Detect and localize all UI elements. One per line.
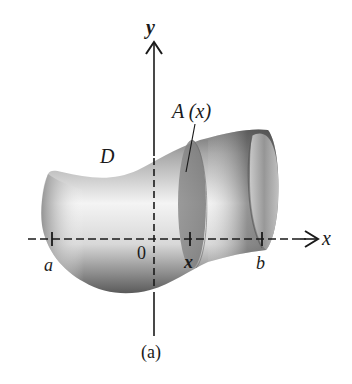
figure-caption: (a) <box>141 343 161 361</box>
x-axis-label: x <box>322 228 331 248</box>
tick-label-x: x <box>184 253 193 271</box>
region-label-d: D <box>100 146 114 166</box>
solid-body <box>41 129 278 293</box>
cross-section-label: A (x) <box>172 101 211 121</box>
tick-label-a: a <box>44 256 53 274</box>
solid-diagram <box>0 0 352 384</box>
y-axis-label: y <box>146 17 155 37</box>
origin-label: 0 <box>137 244 146 262</box>
tick-label-b: b <box>256 254 265 272</box>
